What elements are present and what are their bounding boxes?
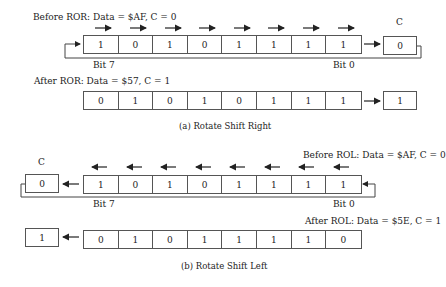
bit-cell: 1	[153, 176, 188, 193]
ror-bit0-label: Bit 0	[333, 61, 355, 70]
rol-caption: (b) Rotate Shift Left	[181, 262, 267, 271]
bit-cell: 1	[326, 176, 361, 193]
ror-after-register: 0 1 0 1 0 1 1 1	[83, 91, 362, 110]
bit-cell: 1	[257, 176, 292, 193]
bit-cell: 1	[222, 36, 257, 53]
bit-cell: 1	[222, 231, 257, 248]
bit-cell: 1	[326, 36, 361, 53]
bit-cell: 0	[188, 36, 223, 53]
bit-cell: 1	[292, 176, 327, 193]
bit-cell: 0	[326, 231, 361, 248]
ror-bit7-label: Bit 7	[93, 61, 115, 70]
ror-carry-label: C	[396, 18, 403, 27]
rol-after-register: 0 1 0 1 1 1 1 0	[83, 230, 362, 249]
bit-cell: 1	[257, 36, 292, 53]
rol-before-carry-box: 0	[25, 174, 59, 193]
ror-after-title: After ROR: Data = $57, C = 1	[34, 77, 170, 86]
bit-cell: 0	[119, 176, 154, 193]
ror-before-title: Before ROR: Data = $AF, C = 0	[33, 13, 177, 22]
bit-cell: 1	[153, 36, 188, 53]
ror-caption: (a) Rotate Shift Right	[179, 122, 271, 131]
bit-cell: 0	[222, 92, 257, 109]
bit-cell: 0	[153, 231, 188, 248]
rol-before-title: Before ROL: Data = $AF, C = 0	[303, 151, 446, 160]
rol-after-title: After ROL: Data = $5E, C = 1	[305, 217, 441, 226]
bit-cell: 1	[292, 36, 327, 53]
rol-bit7-label: Bit 7	[93, 200, 115, 209]
bit-cell: 1	[84, 176, 119, 193]
ror-before-register: 1 0 1 0 1 1 1 1	[83, 35, 362, 54]
rol-bit0-label: Bit 0	[333, 200, 355, 209]
bit-cell: 0	[188, 176, 223, 193]
ror-before-carry-box: 0	[383, 36, 417, 55]
bit-cell: 1	[292, 231, 327, 248]
bit-cell: 1	[326, 92, 361, 109]
bit-cell: 0	[153, 92, 188, 109]
bit-cell: 1	[292, 92, 327, 109]
bit-cell: 1	[257, 92, 292, 109]
bit-cell: 1	[119, 92, 154, 109]
bit-cell: 1	[188, 231, 223, 248]
bit-cell: 0	[119, 36, 154, 53]
bit-cell: 0	[84, 231, 119, 248]
bit-cell: 1	[222, 176, 257, 193]
ror-after-carry-box: 1	[383, 91, 417, 110]
rol-after-carry-box: 1	[25, 228, 59, 247]
bit-cell: 1	[188, 92, 223, 109]
bit-cell: 0	[84, 92, 119, 109]
bit-cell: 1	[84, 36, 119, 53]
bit-cell: 1	[119, 231, 154, 248]
rol-before-register: 1 0 1 0 1 1 1 1	[83, 175, 362, 194]
bit-cell: 1	[257, 231, 292, 248]
rol-carry-label: C	[38, 158, 45, 167]
